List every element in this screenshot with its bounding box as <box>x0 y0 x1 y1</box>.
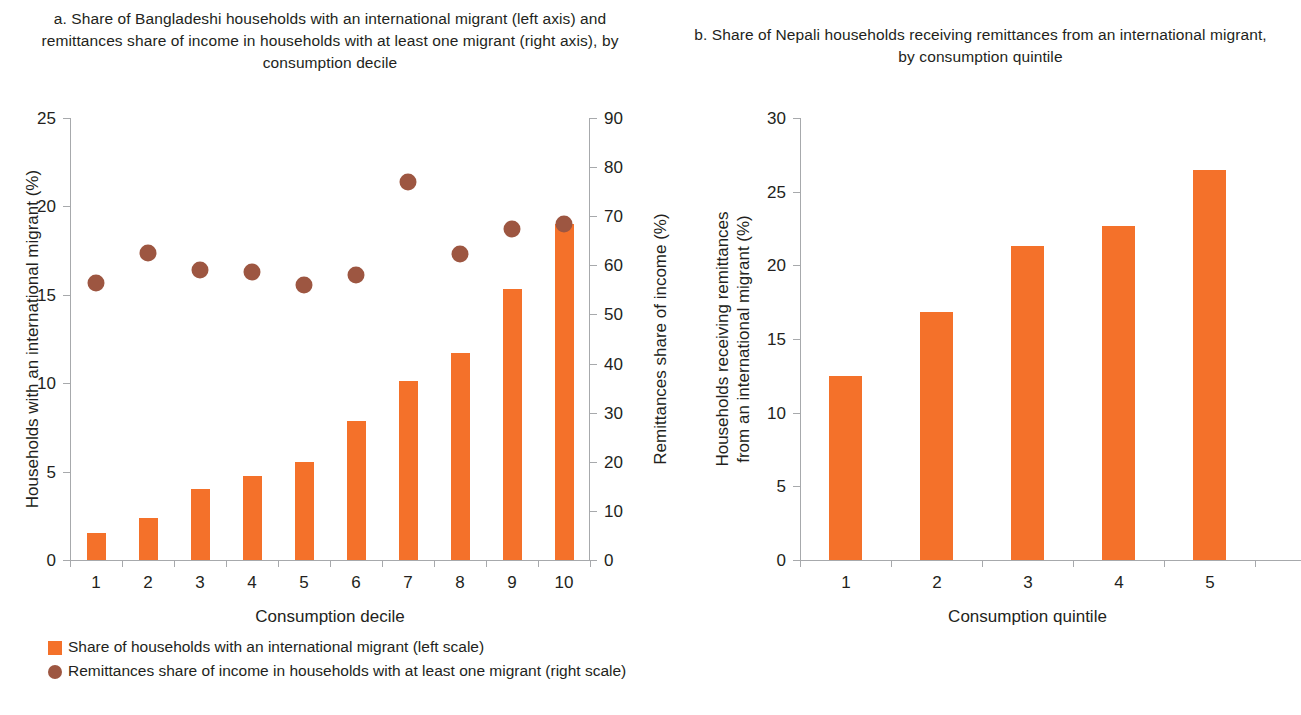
legend-square-swatch-icon <box>48 641 62 655</box>
panel-a-x-tick <box>174 560 175 567</box>
panel-a-x-tick-label: 5 <box>299 574 308 591</box>
panel-a-right-tick-label: 80 <box>604 159 648 176</box>
panel-b-bar <box>1102 226 1135 560</box>
panel-a-x-tick <box>486 560 487 567</box>
panel-a-x-tick <box>538 560 539 567</box>
panel-a-left-axis-title: Households with an international migrant… <box>22 118 43 560</box>
panel-a-left-tick-label: 0 <box>12 552 56 569</box>
panel-a-x-tick-label: 6 <box>351 574 360 591</box>
panel-a-x-tick <box>590 560 591 567</box>
panel-a-bar <box>451 353 470 560</box>
panel-b-y-tick-label: 30 <box>742 110 786 127</box>
panel-a-left-tick <box>63 295 70 296</box>
panel-a-x-tick <box>434 560 435 567</box>
panel-b-x-axis-title: Consumption quintile <box>800 606 1255 627</box>
panel-b-x-axis-line <box>800 560 1301 561</box>
panel-a-bar <box>295 462 314 560</box>
panel-b-x-tick-label: 2 <box>932 574 941 591</box>
legend-item-bars: Share of households with an internationa… <box>0 636 660 660</box>
panel-b-y-tick <box>793 265 800 266</box>
legend-item-dots: Remittances share of income in household… <box>0 660 660 684</box>
panel-b-title: b. Share of Nepali households receiving … <box>660 24 1301 68</box>
panel-b-x-tick-label: 5 <box>1205 574 1214 591</box>
panel-a-dot <box>88 274 105 291</box>
legend-circle-swatch-icon <box>48 665 62 679</box>
panel-a-dot <box>348 266 365 283</box>
panel-a-left-tick-label: 25 <box>12 110 56 127</box>
panel-a-left-tick-label: 5 <box>12 464 56 481</box>
panel-a-dot <box>296 276 313 293</box>
panel-a-right-tick <box>590 462 597 463</box>
panel-a-x-tick-label: 3 <box>195 574 204 591</box>
panel-a-x-tick-label: 8 <box>455 574 464 591</box>
panel-a-x-tick <box>278 560 279 567</box>
panel-a-x-tick <box>330 560 331 567</box>
panel-b-x-tick <box>800 560 801 567</box>
panel-b-x-tick <box>982 560 983 567</box>
panel-a-x-tick-label: 10 <box>555 574 574 591</box>
panel-a-right-tick <box>590 364 597 365</box>
panel-b-nepal: b. Share of Nepali households receiving … <box>660 0 1301 715</box>
panel-a-left-tick-label: 15 <box>12 287 56 304</box>
panel-a-right-tick-label: 40 <box>604 356 648 373</box>
panel-a-right-tick-label: 60 <box>604 257 648 274</box>
panel-a-title: a. Share of Bangladeshi households with … <box>0 8 660 74</box>
panel-b-y-tick <box>793 560 800 561</box>
panel-a-dot <box>556 215 573 232</box>
panel-a-right-axis-line <box>589 118 590 560</box>
panel-a-right-tick <box>590 167 597 168</box>
panel-a-right-tick-label: 20 <box>604 454 648 471</box>
legend-item-dots-label: Remittances share of income in household… <box>68 660 660 682</box>
panel-a-x-axis-title: Consumption decile <box>70 606 590 627</box>
panel-a-bangladesh: a. Share of Bangladeshi households with … <box>0 0 660 715</box>
panel-a-x-tick <box>382 560 383 567</box>
panel-a-left-tick-label: 20 <box>12 198 56 215</box>
panel-a-bar <box>555 224 574 560</box>
panel-b-y-axis-line <box>800 118 801 560</box>
panel-a-bar <box>399 381 418 560</box>
panel-a-bar <box>139 518 158 560</box>
panel-b-bar <box>1193 170 1226 560</box>
panel-a-dot <box>140 245 157 262</box>
panel-a-x-tick <box>70 560 71 567</box>
panel-a-right-tick <box>590 216 597 217</box>
panel-a-x-tick-label: 1 <box>91 574 100 591</box>
panel-a-bar <box>503 289 522 560</box>
panel-b-x-tick-label: 1 <box>841 574 850 591</box>
panel-b-y-tick-label: 15 <box>742 331 786 348</box>
panel-a-dot <box>504 221 521 238</box>
panel-b-bar <box>1011 246 1044 560</box>
panel-a-left-tick-label: 10 <box>12 375 56 392</box>
panel-b-x-tick <box>1255 560 1256 567</box>
panel-a-x-tick-label: 4 <box>247 574 256 591</box>
panel-a-right-tick <box>590 265 597 266</box>
panel-a-x-tick <box>122 560 123 567</box>
panel-a-bar <box>87 533 106 560</box>
panel-b-x-tick <box>1164 560 1165 567</box>
panel-b-plot-area: 05101520253012345 <box>800 118 1255 560</box>
panel-a-left-tick <box>63 206 70 207</box>
panel-a-left-tick <box>63 560 70 561</box>
panel-a-left-tick <box>63 118 70 119</box>
panel-a-left-tick <box>63 383 70 384</box>
panel-b-y-tick-label: 20 <box>742 257 786 274</box>
panel-a-left-axis-line <box>70 118 71 560</box>
panel-b-y-tick-label: 0 <box>742 552 786 569</box>
panel-a-dot <box>400 174 417 191</box>
panel-b-bar <box>920 312 953 560</box>
panel-a-right-tick <box>590 413 597 414</box>
panel-b-y-tick-label: 25 <box>742 184 786 201</box>
panel-b-y-tick-label: 10 <box>742 405 786 422</box>
panel-b-bar <box>829 376 862 560</box>
panel-a-x-tick-label: 9 <box>507 574 516 591</box>
legend: Share of households with an internationa… <box>0 636 660 684</box>
panel-b-y-tick <box>793 118 800 119</box>
panel-b-y-tick-label: 5 <box>742 478 786 495</box>
panel-a-plot-area: 0510152025010203040506070809012345678910 <box>70 118 590 560</box>
panel-b-y-tick <box>793 413 800 414</box>
panel-b-y-tick <box>793 192 800 193</box>
panel-a-right-tick-label: 0 <box>604 552 648 569</box>
panel-b-x-tick-label: 3 <box>1023 574 1032 591</box>
panel-a-bar <box>347 421 366 560</box>
panel-a-right-tick-label: 90 <box>604 110 648 127</box>
